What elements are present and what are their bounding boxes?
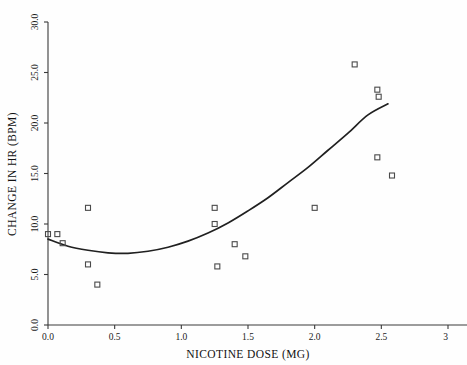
- chart-figure: 0.05.010.015.020.025.030.0 0.00.51.01.52…: [0, 0, 467, 365]
- data-point-marker: [243, 254, 248, 259]
- x-tick-label: 0.0: [42, 332, 54, 342]
- y-tick-label: 20.0: [30, 114, 40, 131]
- y-tick-label: 30.0: [30, 13, 40, 30]
- x-tick-label: 1.5: [242, 332, 254, 342]
- y-axis-ticks: [44, 22, 48, 325]
- y-tick-label: 15.0: [30, 165, 40, 182]
- quadratic-fit-curve: [48, 104, 388, 254]
- data-point-marker: [86, 262, 91, 267]
- y-tick-label: 0.0: [30, 319, 40, 331]
- data-point-marker: [215, 264, 220, 269]
- data-point-marker: [376, 94, 381, 99]
- scatter-plot-svg: 0.05.010.015.020.025.030.0 0.00.51.01.52…: [0, 0, 467, 365]
- x-tick-label: 3: [443, 332, 448, 342]
- data-point-marker: [312, 205, 317, 210]
- data-point-marker: [55, 232, 60, 237]
- y-axis-title: CHANGE IN HR (BPM): [6, 112, 19, 236]
- y-axis-tick-labels: 0.05.010.015.020.025.030.0: [30, 13, 40, 331]
- y-tick-label: 10.0: [30, 215, 40, 232]
- x-tick-label: 0.5: [109, 332, 121, 342]
- y-tick-label: 5.0: [30, 268, 40, 280]
- y-tick-label: 25.0: [30, 64, 40, 81]
- x-tick-label: 2.0: [309, 332, 321, 342]
- data-point-marker: [352, 62, 357, 67]
- x-axis-ticks: [48, 325, 448, 329]
- data-point-marker: [95, 282, 100, 287]
- data-point-marker: [212, 205, 217, 210]
- x-axis-tick-labels: 0.00.51.01.52.02.53: [42, 332, 448, 342]
- data-point-markers: [46, 62, 395, 287]
- data-point-marker: [232, 242, 237, 247]
- data-point-marker: [375, 155, 380, 160]
- x-tick-label: 1.0: [175, 332, 187, 342]
- data-point-marker: [375, 87, 380, 92]
- x-axis-title: NICOTINE DOSE (MG): [186, 348, 309, 361]
- data-point-marker: [212, 222, 217, 227]
- x-tick-label: 2.5: [375, 332, 387, 342]
- data-point-marker: [86, 205, 91, 210]
- axes-group: [48, 22, 467, 325]
- data-point-marker: [390, 173, 395, 178]
